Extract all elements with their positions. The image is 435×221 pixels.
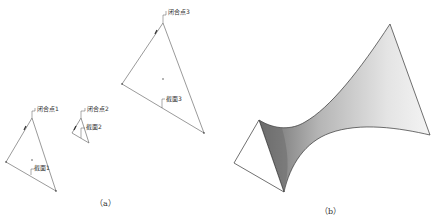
direction-arrow-icon	[74, 126, 76, 130]
closure-point-label-1: 闭合点1	[37, 105, 59, 113]
closure-point-leader	[163, 11, 166, 23]
center-point	[162, 78, 163, 79]
section-label-1: 截面1	[34, 164, 50, 172]
closure-point-leader	[32, 108, 35, 118]
figure-canvas: 闭合点1 截面1 闭合点2 截面2 闭合点3 截面3 （a）	[0, 0, 435, 221]
caption-b: （b）	[320, 207, 341, 216]
section-label-3: 截面3	[166, 95, 182, 103]
section-label-2: 截面2	[86, 123, 102, 131]
section-2-triangle: 闭合点2 截面2	[72, 105, 109, 143]
section-leader	[162, 99, 165, 108]
panel-a: 闭合点1 截面1 闭合点2 截面2 闭合点3 截面3 （a）	[5, 8, 205, 208]
closure-point-leader	[81, 108, 85, 118]
closure-point-label-3: 闭合点3	[168, 8, 190, 16]
caption-a: （a）	[95, 199, 116, 208]
panel-b: （b）	[234, 24, 430, 216]
section-3-triangle: 闭合点3 截面3	[121, 8, 205, 134]
center-point	[31, 159, 32, 160]
closure-point-label-2: 闭合点2	[87, 105, 109, 113]
section-1-triangle: 闭合点1 截面1	[5, 105, 59, 192]
